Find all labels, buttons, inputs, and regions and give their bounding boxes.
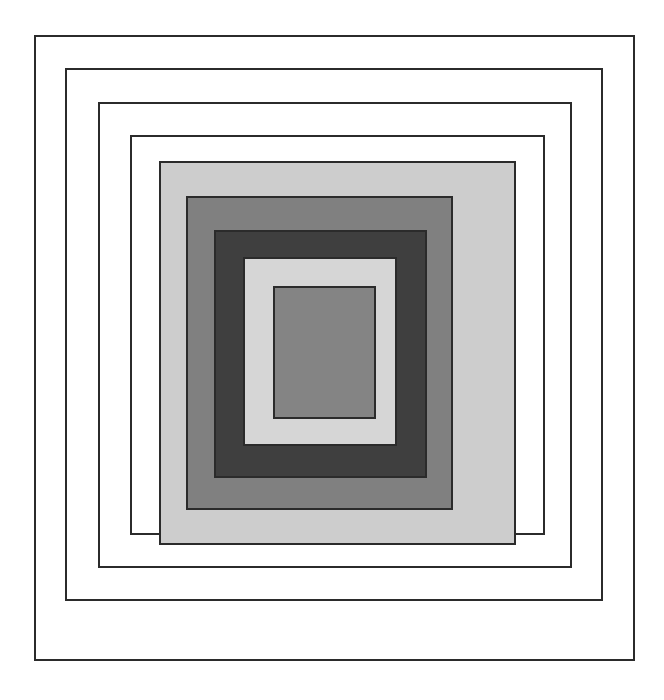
center-medium-gray (273, 286, 376, 419)
artwork-canvas (0, 0, 664, 700)
